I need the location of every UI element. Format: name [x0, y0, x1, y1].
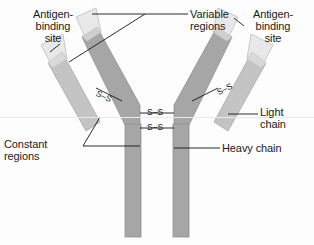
- heavy-chain-right-stem: [173, 124, 189, 237]
- label-constant-regions: Constant regions: [4, 138, 82, 162]
- label-antigen-binding-site-right: Antigen- binding site: [236, 8, 310, 45]
- antibody-diagram-figure: S–S S–S S–S S–S Antigen- binding site Va…: [0, 0, 314, 245]
- label-heavy-chain: Heavy chain: [222, 142, 302, 154]
- disulfide-label-center-upper: S–S: [147, 107, 163, 117]
- heavy-chain-left-stem: [125, 124, 141, 237]
- disulfide-label-center-lower: S–S: [147, 122, 163, 132]
- label-antigen-binding-site-left: Antigen- binding site: [16, 8, 90, 45]
- label-light-chain: Light chain: [260, 106, 310, 130]
